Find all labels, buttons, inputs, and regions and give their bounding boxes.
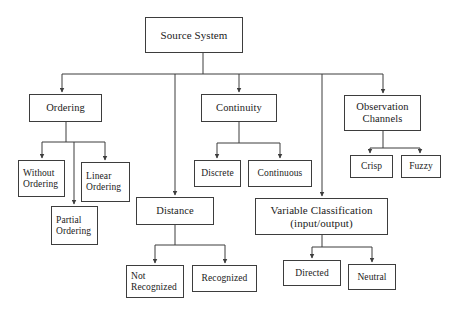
node-fuzzy[interactable]: Fuzzy: [401, 155, 441, 178]
node-not-recognized-line2: Recognized: [131, 282, 177, 292]
node-continuity[interactable]: Continuity: [201, 94, 277, 122]
node-neutral-label: Neutral: [355, 272, 388, 283]
node-without-ordering-label: WithoutOrdering: [19, 168, 60, 189]
node-variable-classification-line1: Variable Classification: [270, 204, 372, 216]
node-source-system-label: Source System: [159, 29, 230, 41]
node-without-ordering-line2: Ordering: [23, 179, 58, 189]
node-observation-channels-line1: Observation: [356, 101, 408, 112]
node-not-recognized[interactable]: NotRecognized: [126, 265, 184, 298]
node-crisp[interactable]: Crisp: [350, 155, 393, 178]
node-linear-ordering-line1: Linear: [86, 171, 111, 181]
node-variable-classification[interactable]: Variable Classification(input/output): [255, 198, 388, 235]
node-source-system[interactable]: Source System: [145, 17, 243, 53]
node-neutral[interactable]: Neutral: [348, 264, 396, 290]
node-without-ordering[interactable]: WithoutOrdering: [18, 160, 65, 197]
node-discrete[interactable]: Discrete: [194, 160, 241, 187]
node-linear-ordering-line2: Ordering: [86, 182, 121, 192]
node-ordering-label: Ordering: [44, 102, 87, 114]
node-crisp-label: Crisp: [359, 161, 384, 172]
diagram-canvas: Source System Ordering Continuity Observ…: [0, 0, 458, 316]
node-partial-ordering-line2: Ordering: [56, 226, 91, 236]
node-recognized-label: Recognized: [200, 273, 250, 284]
node-variable-classification-line2: (input/output): [290, 217, 353, 229]
node-linear-ordering[interactable]: LinearOrdering: [81, 162, 130, 202]
node-distance[interactable]: Distance: [136, 197, 214, 225]
node-partial-ordering[interactable]: PartialOrdering: [51, 206, 98, 245]
node-continuous[interactable]: Continuous: [248, 160, 312, 187]
node-not-recognized-label: NotRecognized: [127, 271, 179, 292]
node-fuzzy-label: Fuzzy: [407, 161, 435, 172]
node-without-ordering-line1: Without: [23, 168, 54, 178]
node-variable-classification-label: Variable Classification(input/output): [268, 204, 374, 229]
node-continuous-label: Continuous: [256, 168, 305, 179]
node-linear-ordering-label: LinearOrdering: [82, 171, 123, 192]
node-distance-label: Distance: [154, 205, 196, 217]
node-directed[interactable]: Directed: [283, 260, 341, 286]
node-partial-ordering-line1: Partial: [56, 215, 82, 225]
node-partial-ordering-label: PartialOrdering: [52, 215, 93, 236]
node-ordering[interactable]: Ordering: [29, 94, 102, 122]
node-not-recognized-line1: Not: [131, 271, 146, 281]
node-observation-channels-label: ObservationChannels: [354, 101, 410, 125]
node-continuity-label: Continuity: [214, 102, 264, 114]
node-discrete-label: Discrete: [199, 168, 235, 179]
node-recognized[interactable]: Recognized: [192, 265, 257, 292]
node-observation-channels-line2: Channels: [363, 113, 403, 124]
node-observation-channels[interactable]: ObservationChannels: [344, 95, 421, 131]
node-directed-label: Directed: [293, 268, 331, 279]
